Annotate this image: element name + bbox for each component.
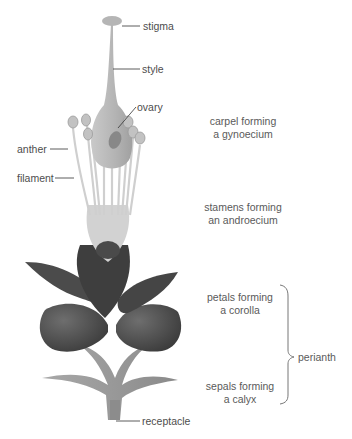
label-stigma: stigma xyxy=(143,20,174,32)
group-carpel-line1: carpel forming xyxy=(188,115,298,128)
group-petals-line1: petals forming xyxy=(185,291,295,304)
group-carpel-line2: a gynoecium xyxy=(188,128,298,141)
group-petals-line2: a corolla xyxy=(185,304,295,317)
group-stamens-line1: stamens forming xyxy=(188,201,298,214)
group-sepals: sepals forming a calyx xyxy=(185,380,295,406)
label-style: style xyxy=(142,63,164,75)
group-stamens: stamens forming an androecium xyxy=(188,201,298,227)
label-receptacle: receptacle xyxy=(142,415,190,427)
group-sepals-line2: a calyx xyxy=(185,393,295,406)
sepals xyxy=(42,345,178,420)
label-perianth: perianth xyxy=(298,351,336,363)
group-sepals-line1: sepals forming xyxy=(185,380,295,393)
label-filament: filament xyxy=(17,172,54,184)
carpel xyxy=(91,16,132,169)
group-carpel: carpel forming a gynoecium xyxy=(188,115,298,141)
flower-diagram xyxy=(0,0,352,439)
label-ovary: ovary xyxy=(137,101,163,113)
group-stamens-line2: an androecium xyxy=(188,214,298,227)
label-anther: anther xyxy=(17,143,47,155)
group-petals: petals forming a corolla xyxy=(185,291,295,317)
